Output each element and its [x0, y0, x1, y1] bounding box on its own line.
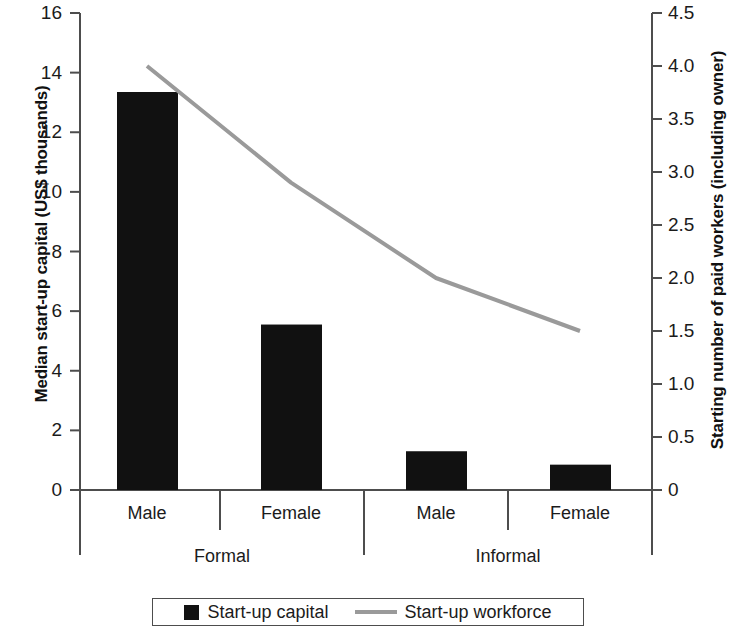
legend-item-capital: Start-up capital: [184, 602, 328, 623]
right-tick-label: 3.5: [668, 109, 728, 128]
right-tick-label: 1.5: [668, 321, 728, 340]
workforce-line: [147, 66, 580, 331]
left-tick-label: 8: [14, 242, 62, 261]
left-tick-label: 2: [14, 420, 62, 439]
legend-label-workforce: Start-up workforce: [405, 602, 552, 623]
chart-legend: Start-up capital Start-up workforce: [152, 598, 584, 626]
right-tick-label: 3.0: [668, 162, 728, 181]
left-tick-label: 0: [14, 480, 62, 499]
chart-figure: Median start-up capital (US$ thousands) …: [0, 0, 732, 630]
left-tick-label: 10: [14, 182, 62, 201]
legend-square-icon: [184, 605, 199, 620]
group-label: Informal: [438, 546, 578, 567]
legend-line-icon: [355, 610, 397, 614]
right-tick-label: 0.5: [668, 427, 728, 446]
line-series: [147, 66, 580, 331]
right-tick-label: 4.0: [668, 56, 728, 75]
right-tick-label: 2.0: [668, 268, 728, 287]
plot-area: [0, 0, 732, 630]
left-tick-label: 4: [14, 361, 62, 380]
group-label: Formal: [152, 546, 292, 567]
bar: [550, 465, 611, 490]
bar: [117, 92, 178, 490]
bar-series: [117, 92, 611, 490]
right-tick-label: 2.5: [668, 215, 728, 234]
category-label: Female: [231, 503, 351, 524]
left-tick-label: 14: [14, 63, 62, 82]
legend-item-workforce: Start-up workforce: [355, 602, 552, 623]
right-tick-label: 0: [668, 480, 728, 499]
left-tick-label: 16: [14, 3, 62, 22]
left-tick-label: 6: [14, 301, 62, 320]
right-tick-label: 4.5: [668, 3, 728, 22]
right-tick-label: 1.0: [668, 374, 728, 393]
left-tick-label: 12: [14, 122, 62, 141]
category-label: Female: [520, 503, 640, 524]
bar: [406, 451, 467, 490]
category-label: Male: [87, 503, 207, 524]
bar: [261, 325, 322, 490]
category-label: Male: [376, 503, 496, 524]
legend-label-capital: Start-up capital: [207, 602, 328, 623]
